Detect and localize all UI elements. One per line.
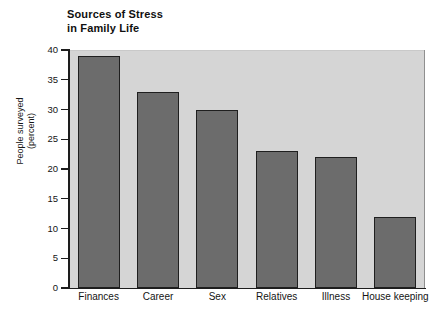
y-axis-tick-label-wrap: 20 [10, 164, 58, 174]
y-axis-tick [61, 49, 68, 50]
y-axis-tick [61, 109, 68, 110]
bar [256, 151, 298, 288]
y-axis-line [68, 49, 70, 289]
y-axis-tick-label-wrap: 30 [10, 105, 58, 115]
bar [137, 92, 179, 288]
bar [374, 217, 416, 288]
chart-figure: Sources of Stress in Family Life People … [0, 0, 438, 324]
y-axis-tick [61, 287, 68, 288]
y-axis-tick [61, 168, 68, 169]
y-axis-tick [61, 228, 68, 229]
y-axis-tick-label: 5 [12, 253, 58, 263]
y-axis-tick-label-wrap: 15 [10, 194, 58, 204]
y-axis-tick-label-wrap: 40 [10, 45, 58, 55]
y-axis-tick [61, 258, 68, 259]
chart-title: Sources of Stress in Family Life [67, 8, 163, 35]
bar [78, 56, 120, 288]
y-axis-tick-label: 10 [12, 224, 58, 234]
y-axis-tick-label: 20 [12, 164, 58, 174]
y-axis-tick-label-wrap: 25 [10, 134, 58, 144]
y-axis-tick-label-wrap: 10 [10, 224, 58, 234]
y-axis-tick [61, 79, 68, 80]
y-axis-tick-label: 30 [12, 105, 58, 115]
plot-area [69, 50, 425, 288]
bar [196, 110, 238, 289]
plot-right-border [424, 50, 425, 288]
y-axis-tick [61, 198, 68, 199]
bar [315, 157, 357, 288]
y-axis-tick-label-wrap: 35 [10, 75, 58, 85]
y-axis-tick-label: 25 [12, 134, 58, 144]
y-axis-tick-label: 15 [12, 194, 58, 204]
y-axis-tick-label-wrap: 5 [10, 253, 58, 263]
x-axis-tick-label: House keeping [335, 291, 438, 303]
plot-top-border [69, 50, 425, 51]
y-axis-tick-label: 40 [12, 45, 58, 55]
y-axis-tick-label: 35 [12, 75, 58, 85]
x-axis-line [68, 288, 426, 290]
y-axis-tick [61, 139, 68, 140]
